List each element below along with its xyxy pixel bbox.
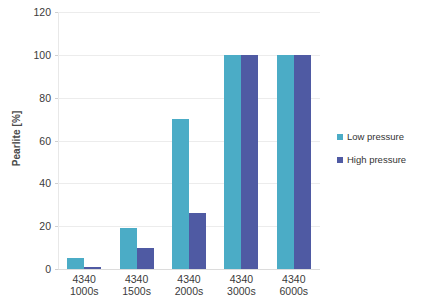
bar <box>67 258 84 269</box>
legend-item[interactable]: Low pressure <box>337 131 406 142</box>
bar-group <box>268 12 320 269</box>
plot-area: 020406080100120 <box>58 12 320 269</box>
x-axis-label: 43401000s <box>58 273 110 297</box>
y-tick-label: 60 <box>39 135 51 147</box>
y-tick-label: 80 <box>39 92 51 104</box>
legend-label: High pressure <box>347 154 406 165</box>
y-tick-label: 40 <box>39 177 51 189</box>
gridline <box>58 269 320 270</box>
legend-label: Low pressure <box>347 131 404 142</box>
bar <box>189 213 206 269</box>
bar <box>84 267 101 269</box>
y-tick-label: 100 <box>33 49 51 61</box>
bar-group <box>110 12 162 269</box>
x-axis-label-line1: 4340 <box>230 273 253 285</box>
x-axis-label-line1: 4340 <box>73 273 96 285</box>
x-axis-label-line2: 6000s <box>268 285 320 297</box>
legend: Low pressureHigh pressure <box>337 131 406 177</box>
bar <box>294 55 311 269</box>
x-axis-label-line1: 4340 <box>125 273 148 285</box>
bar <box>120 228 137 269</box>
legend-item[interactable]: High pressure <box>337 154 406 165</box>
bar-group <box>58 12 110 269</box>
y-tick-label: 120 <box>33 6 51 18</box>
x-axis-label: 43406000s <box>268 273 320 297</box>
x-axis-label-line2: 1000s <box>58 285 110 297</box>
y-tick-label: 0 <box>45 263 51 275</box>
x-axis-label: 43402000s <box>163 273 215 297</box>
bar <box>277 55 294 269</box>
legend-swatch-icon <box>337 157 343 163</box>
x-axis-label-line1: 4340 <box>282 273 305 285</box>
y-axis-title: Pearlite [%] <box>11 84 22 194</box>
legend-swatch-icon <box>337 134 343 140</box>
bar-group <box>215 12 267 269</box>
x-axis-label-line2: 2000s <box>163 285 215 297</box>
x-axis-label-line1: 4340 <box>177 273 200 285</box>
bar <box>172 119 189 269</box>
bar <box>224 55 241 269</box>
x-axis-label: 43401500s <box>111 273 163 297</box>
y-tick-label: 20 <box>39 220 51 232</box>
bar <box>241 55 258 269</box>
bar-group <box>163 12 215 269</box>
x-axis-label-line2: 3000s <box>215 285 267 297</box>
y-tick-mark <box>55 269 58 270</box>
bar <box>137 248 154 269</box>
bar-chart: Pearlite [%] 020406080100120 43401000s43… <box>0 0 426 297</box>
x-axis-label: 43403000s <box>215 273 267 297</box>
x-axis-label-line2: 1500s <box>111 285 163 297</box>
